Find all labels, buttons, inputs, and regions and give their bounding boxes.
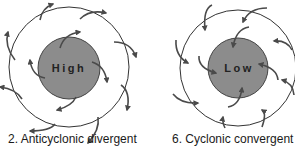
low-pressure-diagram: Low xyxy=(173,5,295,128)
caption-cyclonic: 6. Cyclonic convergent xyxy=(172,132,293,146)
caption-anticyclonic: 2. Anticyclonic divergent xyxy=(8,132,137,146)
low-label: Low xyxy=(224,62,254,74)
high-pressure-diagram: High xyxy=(0,4,136,143)
high-label: High xyxy=(52,62,86,74)
